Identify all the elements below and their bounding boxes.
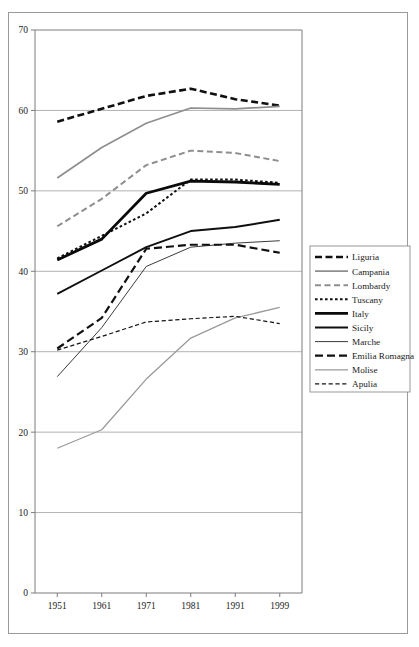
legend-label-sicily: Sicily [352,323,374,333]
x-tick-label: 1981 [181,601,200,611]
x-axis: 195119611971198119911999 [48,593,290,611]
y-tick-label: 0 [23,588,28,598]
x-tick-label: 1961 [92,601,111,611]
figure-root: 010203040506070 195119611971198119911999… [0,0,419,647]
legend-label-liguria: Liguria [352,252,379,262]
series-line-italy [57,181,280,260]
series-line-liguria [57,89,280,122]
y-tick-label: 70 [19,25,29,35]
y-tick-label: 30 [19,347,29,357]
legend-label-marche: Marche [352,337,380,347]
y-tick-label: 50 [19,186,29,196]
x-tick-label: 1999 [270,601,289,611]
y-tick-label: 20 [19,428,29,438]
y-tick-label: 10 [19,508,29,518]
series-line-apulia [57,316,280,350]
y-axis: 010203040506070 [19,25,36,598]
legend-label-molise: Molise [352,365,378,375]
x-tick-label: 1991 [226,601,245,611]
series-line-emilia-romagna [57,245,280,349]
chart-legend: LiguriaCampaniaLombardyTuscanyItalySicil… [310,246,414,392]
x-tick-label: 1971 [137,601,156,611]
series-group [57,89,280,449]
y-tick-label: 60 [19,106,29,116]
series-line-campania [57,106,280,178]
legend-label-lombardy: Lombardy [352,281,391,291]
legend-label-campania: Campania [352,267,389,277]
legend-label-emilia-romagna: Emilia Romagna [352,351,414,361]
series-line-molise [57,307,280,448]
series-line-marche [57,241,280,377]
legend-label-apulia: Apulia [352,379,377,389]
legend-label-italy: Italy [352,309,369,319]
legend-label-tuscany: Tuscany [352,295,383,305]
line-chart: 010203040506070 195119611971198119911999… [0,0,419,647]
y-tick-label: 40 [19,267,29,277]
x-tick-label: 1951 [48,601,67,611]
